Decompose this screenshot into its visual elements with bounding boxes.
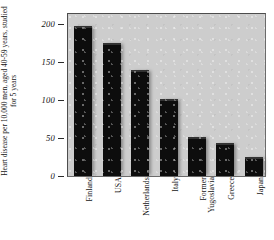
x-axis-labels: FinlandUSANetherlandsItalyFormer Yugosla… [67,179,266,240]
y-tick-label: 0 [51,171,59,181]
bar-top-highlight [131,70,149,72]
y-tick-mark [58,62,64,63]
bar-usa [103,43,121,176]
bar-greece [216,143,234,176]
bar-netherlands [131,70,149,176]
y-axis-title: Heart disease per 10,000 men, aged 40-59… [0,0,30,182]
y-tick-mark [58,100,64,101]
x-axis-label-italy: Italy [172,177,180,239]
y-tick-mark [58,138,64,139]
bar-top-highlight [103,43,121,45]
x-axis-label-greece: Greece [228,177,236,239]
y-axis-title-text: Heart disease per 10,000 men, aged 40-59… [0,2,18,180]
bar-top-highlight [245,157,263,159]
y-axis-ticks: 050100150200 [30,0,64,240]
x-axis-label-japan: Japan [257,177,265,239]
bar-top-highlight [74,26,92,28]
y-tick-label: 50 [46,133,58,143]
y-tick-label: 200 [42,19,59,29]
bar-top-highlight [216,143,234,145]
bar-finland [74,26,92,176]
x-axis-label-finland: Finland [86,177,94,239]
bar-top-highlight [160,99,178,101]
y-tick-150: 150 [42,57,65,67]
y-tick-200: 200 [42,19,65,29]
x-axis-label-former-yugoslavia: Former Yugoslavia [200,177,217,239]
y-tick-50: 50 [46,133,64,143]
x-axis-label-usa: USA [115,177,123,239]
x-axis-label-netherlands: Netherlands [143,177,151,239]
bar-japan [245,157,263,176]
y-tick-100: 100 [42,95,65,105]
y-tick-label: 150 [42,57,59,67]
y-tick-label: 100 [42,95,59,105]
bar-series [68,14,265,176]
bar-top-highlight [188,137,206,139]
bar-former-yugoslavia [188,137,206,176]
plot-area [67,13,266,177]
y-tick-0: 0 [51,171,65,181]
y-tick-mark [58,24,64,25]
bar-italy [160,99,178,176]
y-tick-mark [58,176,64,177]
